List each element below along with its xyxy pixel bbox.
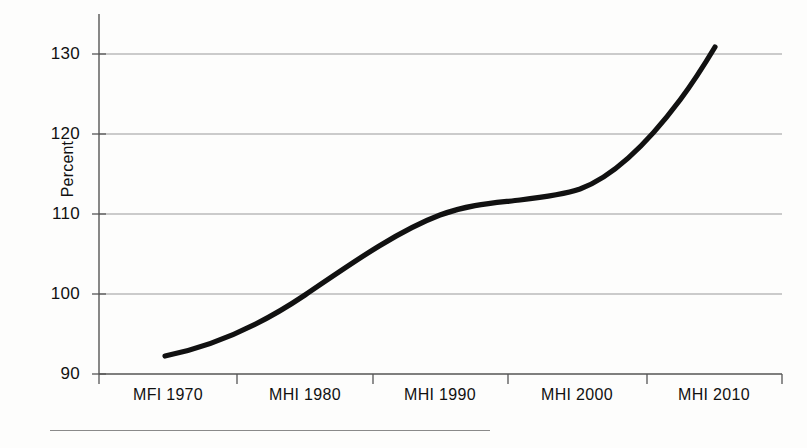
y-tick-label-90: 90: [20, 364, 80, 384]
y-tick-label-110: 110: [20, 204, 80, 224]
x-tick-label-mhi-2000: MHI 2000: [497, 386, 657, 404]
x-tick-label-mhi-2010: MHI 2010: [634, 386, 794, 404]
data-line-percent: [165, 47, 715, 356]
x-tick-label-mfi-1970: MFI 1970: [88, 386, 248, 404]
x-tick-label-mhi-1990: MHI 1990: [360, 386, 520, 404]
y-tick-label-120: 120: [20, 124, 80, 144]
y-tick-label-130: 130: [20, 44, 80, 64]
chart-figure: Percent 130 120 110 100 90 MFI 1970 MHI …: [0, 0, 807, 448]
x-tick-marks: [99, 374, 782, 384]
gridlines: [99, 54, 782, 294]
y-tick-label-100: 100: [20, 284, 80, 304]
line-chart-canvas: [0, 0, 807, 448]
footer-divider: [50, 430, 490, 431]
